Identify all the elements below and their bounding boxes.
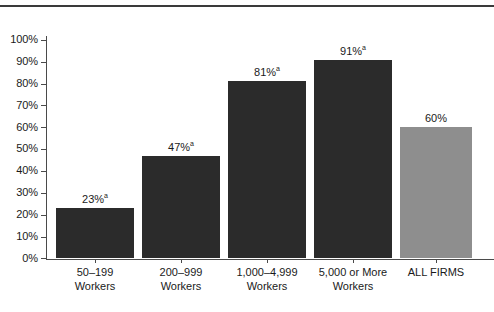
- y-axis-label-50: 50%: [0, 143, 38, 154]
- y-axis-label-100: 100%: [0, 34, 38, 45]
- bar-5000-or-more[interactable]: 91%a: [314, 60, 392, 258]
- y-axis-tick-90: [41, 62, 46, 63]
- y-axis-tick-10: [41, 237, 46, 238]
- y-axis-tick-0: [41, 258, 46, 259]
- x-axis-label-200-999-line1: 200–999: [160, 266, 203, 278]
- x-axis-tick-200-999: [181, 259, 182, 263]
- y-axis-line: [46, 36, 47, 260]
- y-axis-tick-30: [41, 193, 46, 194]
- y-axis-label-90: 90%: [0, 56, 38, 67]
- y-axis-label-60: 60%: [0, 122, 38, 133]
- x-axis-tick-all-firms: [436, 259, 437, 263]
- x-axis-label-5000-or-more-line1: 5,000 or More: [319, 266, 387, 278]
- x-axis-label-5000-or-more-line2: Workers: [299, 280, 407, 294]
- y-axis-tick-40: [41, 171, 46, 172]
- bar-rect-all-firms: [400, 127, 472, 258]
- x-axis-tick-5000-or-more: [353, 259, 354, 263]
- bar-value-200-999: 47%a: [168, 141, 194, 153]
- bar-value-50-199: 23%a: [82, 193, 108, 205]
- y-axis-tick-70: [41, 105, 46, 106]
- bar-rect-5000-or-more: [314, 60, 392, 258]
- y-axis-label-40: 40%: [0, 165, 38, 176]
- x-axis-label-50-199-line1: 50–199: [77, 266, 114, 278]
- x-axis-label-1000-4999-line1: 1,000–4,999: [236, 266, 297, 278]
- bar-200-999[interactable]: 47%a: [142, 156, 220, 258]
- x-axis-label-all-firms-line1: ALL FIRMS: [408, 266, 464, 278]
- y-axis-tick-60: [41, 127, 46, 128]
- y-axis-label-70: 70%: [0, 100, 38, 111]
- y-axis-label-30: 30%: [0, 187, 38, 198]
- x-axis-tick-50-199: [95, 259, 96, 263]
- y-axis-tick-50: [41, 149, 46, 150]
- y-axis-tick-20: [41, 215, 46, 216]
- y-axis-label-80: 80%: [0, 78, 38, 89]
- bar-value-all-firms: 60%: [425, 112, 447, 124]
- bar-rect-50-199: [56, 208, 134, 258]
- x-axis-label-all-firms: ALL FIRMS: [386, 266, 486, 280]
- x-axis-tick-1000-4999: [267, 259, 268, 263]
- y-axis-tick-80: [41, 84, 46, 85]
- bar-rect-200-999: [142, 156, 220, 258]
- bar-50-199[interactable]: 23%a: [56, 208, 134, 258]
- y-axis-label-10: 10%: [0, 231, 38, 242]
- bar-all-firms[interactable]: 60%: [400, 127, 472, 258]
- bar-chart-figure: 100% 90% 80% 70% 60% 50% 40% 30% 20% 10%…: [0, 0, 494, 312]
- bar-value-5000-or-more: 91%a: [340, 45, 366, 57]
- bar-value-1000-4999: 81%a: [254, 66, 280, 78]
- figure-top-rule: [0, 5, 494, 7]
- bar-1000-4999[interactable]: 81%a: [228, 81, 306, 258]
- y-axis-label-0: 0%: [0, 253, 38, 264]
- bar-rect-1000-4999: [228, 81, 306, 258]
- x-axis-line: [46, 259, 494, 260]
- y-axis-label-20: 20%: [0, 209, 38, 220]
- y-axis-tick-100: [41, 40, 46, 41]
